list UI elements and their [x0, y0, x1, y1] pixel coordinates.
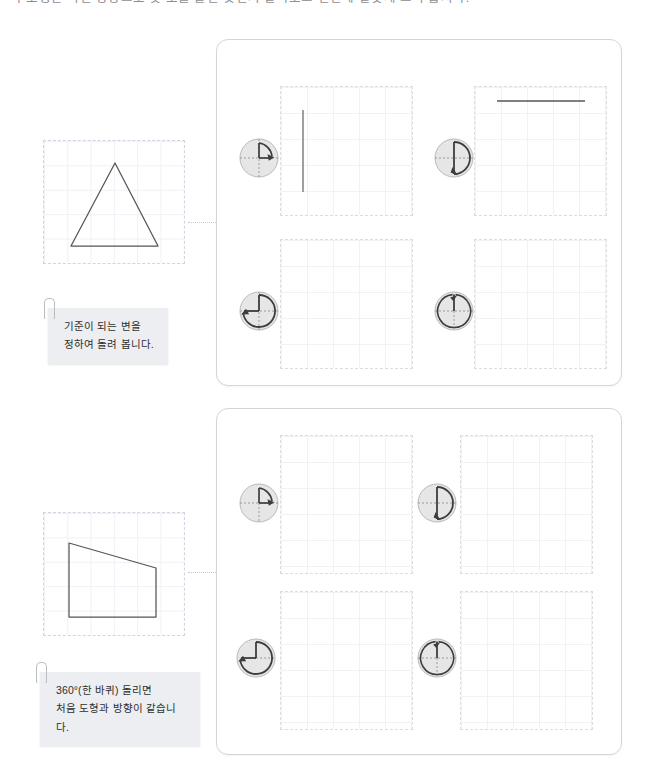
cell-grid-background [461, 436, 592, 573]
source-shape-triangle [43, 140, 185, 264]
connector-line-1 [188, 222, 218, 224]
answer-panel-2 [216, 408, 622, 755]
cell-1-2[interactable] [474, 86, 607, 216]
trapezoid-icon [44, 513, 184, 635]
paperclip-icon [36, 662, 47, 684]
vertical-line-drawing [281, 87, 412, 215]
rotation-dial-360-icon [415, 636, 459, 680]
note-1: 기준이 되는 변을 정하여 돌려 봅니다. [48, 308, 168, 364]
connector-line-2 [188, 572, 218, 574]
cell-1-3[interactable] [280, 239, 413, 369]
rotation-dial-180-icon [415, 481, 459, 525]
cell-2-4[interactable] [460, 591, 593, 730]
cell-1-4[interactable] [474, 239, 607, 369]
rotation-dial-360-icon [432, 289, 476, 333]
note-2-text: 360°(한 바퀴) 돌리면 처음 도형과 방향이 같습니다. [40, 672, 200, 746]
cell-grid-background [281, 240, 412, 368]
rotation-dial-90-icon [237, 481, 281, 525]
triangle-icon [44, 141, 184, 263]
cell-1-1[interactable] [280, 86, 413, 216]
answer-panel-1 [216, 39, 622, 386]
cell-2-2[interactable] [460, 435, 593, 574]
cell-2-3[interactable] [280, 591, 413, 730]
source-shape-trapezoid [43, 512, 185, 636]
cell-grid-background [281, 436, 412, 573]
horizontal-line-drawing [475, 87, 606, 215]
cell-2-1[interactable] [280, 435, 413, 574]
clipped-heading: 각 도형은 어떤 방향으로 몇 도를 돌린 것인지 알아보고 빈칸에 알맞게 그… [0, 0, 651, 11]
paperclip-icon [44, 298, 55, 320]
worksheet-page: 각 도형은 어떤 방향으로 몇 도를 돌린 것인지 알아보고 빈칸에 알맞게 그… [0, 0, 651, 770]
rotation-dial-180-icon [432, 136, 476, 180]
rotation-dial-270-icon [237, 289, 281, 333]
note-1-text: 기준이 되는 변을 정하여 돌려 봅니다. [48, 308, 168, 364]
note-2: 360°(한 바퀴) 돌리면 처음 도형과 방향이 같습니다. [40, 672, 200, 746]
rotation-dial-90-icon [237, 136, 281, 180]
cell-grid-background [475, 240, 606, 368]
cell-grid-background [281, 592, 412, 729]
clipped-heading-text: 각 도형은 어떤 방향으로 몇 도를 돌린 것인지 알아보고 빈칸에 알맞게 그… [10, 0, 470, 6]
rotation-dial-270-icon [234, 636, 278, 680]
cell-grid-background [461, 592, 592, 729]
